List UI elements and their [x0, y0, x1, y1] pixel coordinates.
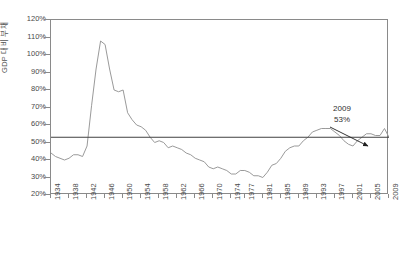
x-tick-label: 1934	[53, 183, 62, 200]
x-tick-label: 2009	[391, 183, 400, 200]
x-tick-label: 2001	[355, 183, 364, 200]
x-tick-label: 1989	[301, 183, 310, 200]
annotation-2009: 2009 53%	[316, 103, 368, 125]
x-tick-label: 1966	[197, 183, 206, 200]
x-tick-label: 1985	[283, 183, 292, 200]
y-tick-label: 20%	[6, 190, 46, 198]
x-tick-mark	[176, 194, 177, 198]
x-tick-mark	[68, 194, 69, 198]
y-tick-label: 30%	[6, 173, 46, 181]
y-tick-label: 40%	[6, 155, 46, 163]
x-tick-mark	[212, 194, 213, 198]
x-tick-mark	[334, 194, 335, 198]
x-tick-mark	[262, 194, 263, 198]
x-tick-mark	[122, 194, 123, 198]
x-axis-tick-labels: 1934193819421946195019541958196219661970…	[50, 200, 410, 246]
x-tick-mark	[298, 194, 299, 198]
x-tick-mark	[104, 194, 105, 198]
x-tick-mark	[50, 194, 51, 198]
y-axis-tick-labels: 120%110%100%90%80%70%60%50%40%30%20%	[4, 0, 46, 256]
x-tick-label: 1977	[247, 183, 256, 200]
y-tick-label: 120%	[6, 15, 46, 23]
x-tick-label: 1938	[71, 183, 80, 200]
x-tick-label: 1993	[319, 183, 328, 200]
chart-title-cutoff	[196, 0, 316, 9]
chart-figure: GDP 대비 부채 120%110%100%90%80%70%60%50%40%…	[0, 0, 416, 256]
y-tick-label: 80%	[6, 85, 46, 93]
x-tick-label: 1950	[125, 183, 134, 200]
y-tick-label: 90%	[6, 68, 46, 76]
x-tick-mark	[316, 194, 317, 198]
x-tick-label: 1981	[265, 183, 274, 200]
x-tick-mark	[352, 194, 353, 198]
x-tick-mark	[158, 194, 159, 198]
y-tick-label: 70%	[6, 103, 46, 111]
x-tick-mark	[86, 194, 87, 198]
x-tick-label: 1958	[161, 183, 170, 200]
x-tick-label: 1997	[337, 183, 346, 200]
annotation-value: 53%	[316, 114, 368, 125]
x-tick-label: 1962	[179, 183, 188, 200]
x-tick-mark	[388, 194, 389, 198]
x-tick-label: 1974	[233, 183, 242, 200]
x-tick-mark	[280, 194, 281, 198]
x-tick-mark	[244, 194, 245, 198]
x-tick-label: 1954	[143, 183, 152, 200]
x-tick-label: 1946	[107, 183, 116, 200]
x-tick-mark	[194, 194, 195, 198]
x-tick-mark	[140, 194, 141, 198]
y-tick-label: 110%	[6, 33, 46, 41]
x-tick-mark	[230, 194, 231, 198]
x-tick-label: 1942	[89, 183, 98, 200]
x-tick-label: 2005	[373, 183, 382, 200]
y-tick-label: 60%	[6, 120, 46, 128]
y-tick-label: 100%	[6, 50, 46, 58]
x-tick-mark	[370, 194, 371, 198]
y-tick-label: 50%	[6, 138, 46, 146]
annotation-year: 2009	[316, 103, 368, 114]
x-tick-label: 1970	[215, 183, 224, 200]
